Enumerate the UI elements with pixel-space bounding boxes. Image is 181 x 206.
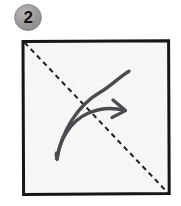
fold-arrow-tail: [56, 153, 57, 159]
step-number-badge: 2: [14, 4, 42, 31]
paper-square: [21, 39, 171, 196]
step-number-label: 2: [14, 4, 42, 31]
paper-square-svg: [21, 39, 171, 196]
origami-step-diagram: 2: [0, 0, 181, 206]
